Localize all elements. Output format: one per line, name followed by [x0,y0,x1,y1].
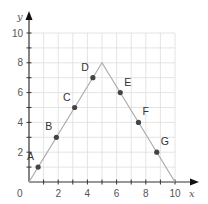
point-label-b: B [45,120,52,132]
data-point-b [54,135,59,140]
data-points: ABCDEFG [27,61,169,170]
y-tick-label: 8 [17,57,23,68]
y-tick-label: 2 [17,147,23,158]
point-label-e: E [124,76,131,88]
point-label-a: A [27,150,34,162]
data-point-d [90,75,95,80]
x-axis-label: x [189,188,195,199]
y-axis-label: y [16,11,23,22]
tick-labels: 246810246810 [12,28,181,200]
data-point-f [136,120,141,125]
data-point-g [154,150,159,155]
x-axis-arrow-icon [190,179,199,186]
x-tick-label: 6 [114,188,120,199]
chart: 246810246810 ABCDEFG x y 0 [0,0,208,204]
origin-label: 0 [17,188,23,199]
y-axis-arrow-icon [26,11,33,20]
y-tick-label: 4 [17,117,23,128]
data-point-c [72,105,77,110]
point-label-c: C [63,91,71,103]
x-tick-label: 4 [85,188,91,199]
y-tick-label: 10 [12,28,24,39]
y-tick-label: 6 [17,87,23,98]
point-label-f: F [143,105,149,117]
x-tick-label: 2 [55,188,61,199]
grid [29,33,175,182]
point-label-d: D [81,61,89,73]
x-tick-label: 8 [143,188,149,199]
point-label-g: G [161,135,169,147]
x-tick-label: 10 [169,188,181,199]
axis-ticks [27,33,176,185]
data-point-e [118,90,123,95]
data-point-a [36,165,41,170]
axes [26,11,200,186]
